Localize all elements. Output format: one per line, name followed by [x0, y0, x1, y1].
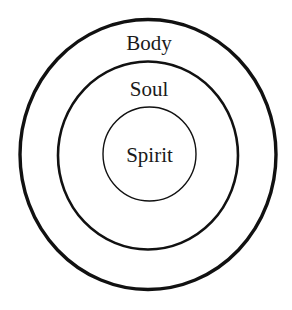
label-spirit: Spirit: [126, 143, 173, 167]
concentric-circles-diagram: Body Soul Spirit: [0, 0, 292, 310]
label-soul: Soul: [130, 77, 169, 101]
label-body: Body: [126, 31, 172, 55]
